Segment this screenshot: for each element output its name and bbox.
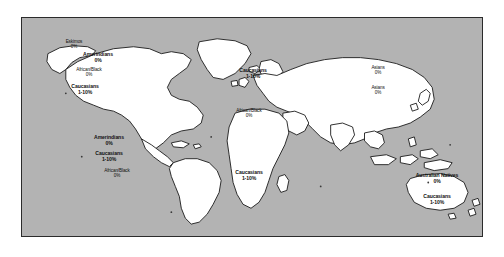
landmass-indonesia-2 — [400, 155, 418, 165]
map-label-north-america-amerindians: Amerindians 0% — [70, 52, 126, 63]
landmass-caribbean-1 — [171, 141, 189, 148]
landmass-new-zealand-north — [472, 198, 480, 206]
landmass-indochina — [365, 131, 385, 149]
label-group-value: 0% — [218, 114, 280, 119]
label-group-value: 0% — [356, 91, 400, 96]
label-group-value: 0% — [404, 179, 470, 185]
map-frame: Eskimos 0% Amerindians 0% African/Black … — [21, 17, 483, 237]
label-group-value: 0% — [78, 141, 140, 147]
label-group-value: 0% — [88, 174, 146, 179]
map-label-australia-caucasians: Caucasians 1-10% — [406, 194, 468, 205]
landmass-indonesia-1 — [370, 155, 396, 165]
map-label-europe-caucasians: Caucasians 1-10% — [224, 68, 282, 79]
label-group-value: 0% — [60, 73, 118, 78]
map-label-africa-african-black: African/Black 0% — [218, 109, 280, 119]
island-dot-6 — [170, 211, 172, 213]
label-group-value: 0% — [52, 45, 96, 50]
map-label-north-america-caucasians: Caucasians 1-10% — [56, 84, 114, 95]
landmass-philippines — [408, 137, 416, 147]
island-dot-3 — [210, 136, 212, 138]
island-dot-5 — [449, 144, 451, 146]
label-group-value: 1-10% — [220, 176, 278, 182]
map-label-asia-north-asians: Asians 0% — [356, 66, 400, 76]
map-label-australia-natives: Australian Natives 0% — [404, 173, 470, 184]
landmass-indonesia-3 — [420, 149, 438, 159]
map-label-south-america-african-black: African/Black 0% — [88, 169, 146, 179]
label-group-value: 1-10% — [224, 74, 282, 80]
landmass-ireland — [231, 80, 238, 86]
map-label-north-america-african-black: African/Black 0% — [60, 68, 118, 78]
map-label-asia-south-asians: Asians 0% — [356, 86, 400, 96]
landmass-madagascar — [277, 175, 289, 193]
map-label-north-america-eskimos: Eskimos 0% — [52, 40, 96, 50]
landmass-africa — [227, 109, 289, 208]
landmass-south-america — [169, 159, 221, 224]
landmass-caribbean-2 — [193, 144, 201, 149]
island-dot-7 — [320, 186, 322, 188]
map-label-south-america-amerindians: Amerindians 0% — [78, 135, 140, 146]
label-group-value: 0% — [356, 71, 400, 76]
landmass-india — [331, 123, 355, 151]
landmass-new-guinea — [424, 160, 452, 171]
label-group-value: 1-10% — [80, 157, 138, 163]
map-label-south-america-caucasians: Caucasians 1-10% — [80, 151, 138, 162]
world-prevalence-map-figure: Eskimos 0% Amerindians 0% African/Black … — [0, 0, 504, 257]
landmass-korea — [410, 103, 418, 111]
label-group-value: 0% — [70, 58, 126, 64]
map-label-southern-africa-caucasians: Caucasians 1-10% — [220, 170, 278, 181]
label-group-value: 1-10% — [406, 200, 468, 206]
landmass-tasmania — [448, 213, 456, 219]
label-group-value: 1-10% — [56, 90, 114, 96]
landmass-new-zealand-south — [468, 208, 476, 216]
